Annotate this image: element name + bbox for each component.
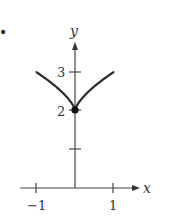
x-axis-label: x <box>143 180 151 196</box>
y-tick-label: 3 <box>57 65 65 80</box>
x-axis-arrow-icon <box>132 185 140 191</box>
x-tick-label: 1 <box>109 198 117 213</box>
chart: x y −1 1 2 3 <box>0 0 188 223</box>
x-tick-label: −1 <box>27 198 46 213</box>
y-axis-label: y <box>69 23 79 39</box>
cusp-point <box>71 106 78 113</box>
y-tick-label: 2 <box>57 104 65 119</box>
y-axis-arrow-icon <box>72 42 78 50</box>
